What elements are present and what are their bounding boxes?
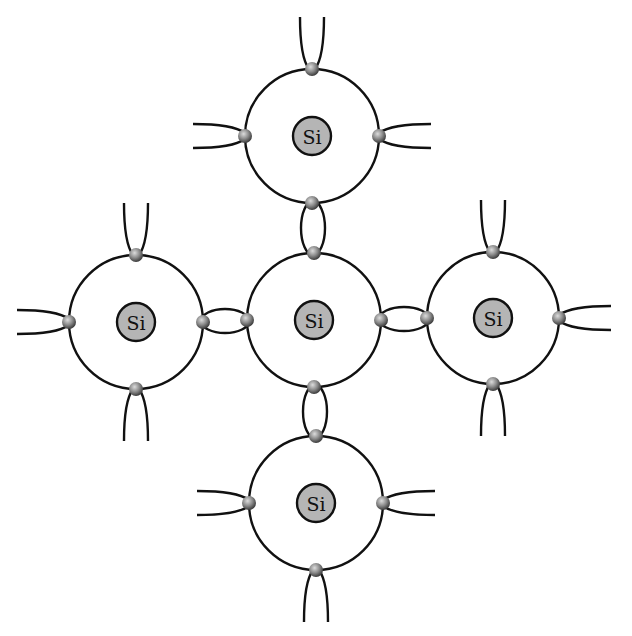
open-bond-left-n — [124, 203, 148, 255]
open-bond-top-w — [193, 124, 245, 148]
electron-icon — [196, 315, 210, 329]
electron-icon — [309, 429, 323, 443]
electron-icon — [376, 496, 390, 510]
electron-icon — [309, 563, 323, 577]
open-bond-bottom-w — [197, 491, 249, 515]
electron-icon — [307, 380, 321, 394]
open-bond-bottom-s — [304, 570, 328, 622]
si-nuclei: SiSiSiSiSi — [117, 117, 512, 522]
electron-icon — [420, 311, 434, 325]
open-bond-right-s — [481, 384, 505, 436]
open-bond-right-n — [481, 200, 505, 252]
electron-icon — [62, 315, 76, 329]
open-bond-bottom-e — [383, 491, 435, 515]
open-bond-left-w — [17, 310, 69, 334]
electron-icon — [240, 313, 254, 327]
electron-icon — [129, 248, 143, 262]
electron-icon — [552, 311, 566, 325]
electron-icon — [129, 382, 143, 396]
electron-icon — [305, 62, 319, 76]
electron-icon — [305, 196, 319, 210]
electron-icon — [242, 496, 256, 510]
open-bond-top-n — [300, 17, 324, 69]
si-label: Si — [304, 310, 323, 332]
si-label: Si — [483, 308, 502, 330]
open-bond-right-e — [559, 306, 611, 330]
electron-icon — [372, 129, 386, 143]
electron-icon — [374, 313, 388, 327]
silicon-lattice-diagram: SiSiSiSiSi — [0, 0, 632, 636]
si-label: Si — [126, 312, 145, 334]
electron-icon — [238, 129, 252, 143]
electron-icon — [486, 245, 500, 259]
si-label: Si — [302, 126, 321, 148]
si-label: Si — [306, 493, 325, 515]
open-bond-top-e — [379, 124, 431, 148]
electron-icon — [486, 377, 500, 391]
electron-icon — [307, 246, 321, 260]
open-bond-left-s — [124, 389, 148, 441]
